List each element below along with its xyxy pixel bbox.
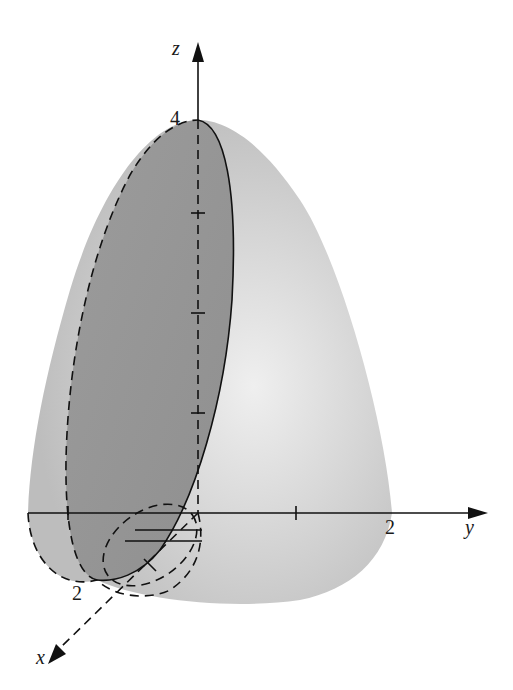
x-axis-arrow-icon [48,644,66,664]
z-max-label: 4 [170,107,180,129]
paraboloid-diagram: z 4 y 2 x 2 [0,0,513,690]
z-axis-label: z [171,37,180,59]
y-tick-label: 2 [385,516,395,538]
x-axis-label: x [35,646,45,668]
y-axis-label: y [463,516,474,539]
z-axis-arrow-icon [192,42,204,62]
x-tick-label: 2 [72,582,82,604]
